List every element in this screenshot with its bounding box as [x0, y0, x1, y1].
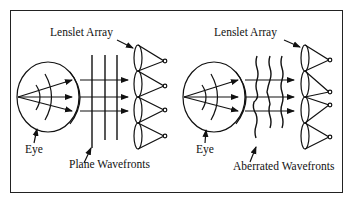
lenslet-pointer-arrow — [284, 40, 300, 47]
lenslet-array-label: Lenslet Array — [214, 27, 277, 39]
eye-pointer-arrow — [34, 129, 37, 143]
eye-rays — [184, 80, 238, 111]
plane-wavefronts-label: Plane Wavefronts — [69, 159, 150, 171]
eye-rays — [18, 80, 72, 111]
outgoing-rays — [80, 80, 128, 111]
aberrated-wavefronts-label: Aberrated Wavefronts — [233, 161, 334, 173]
eye-label: Eye — [196, 144, 214, 156]
eye-pointer-arrow — [205, 130, 206, 143]
lenslet-array — [134, 45, 167, 149]
plane-wavefronts — [92, 55, 117, 148]
lenslet-array-label: Lenslet Array — [50, 27, 113, 39]
eye-label: Eye — [25, 144, 43, 156]
lenslet-array — [301, 45, 332, 149]
lenslet-pointer-arrow — [117, 40, 133, 48]
